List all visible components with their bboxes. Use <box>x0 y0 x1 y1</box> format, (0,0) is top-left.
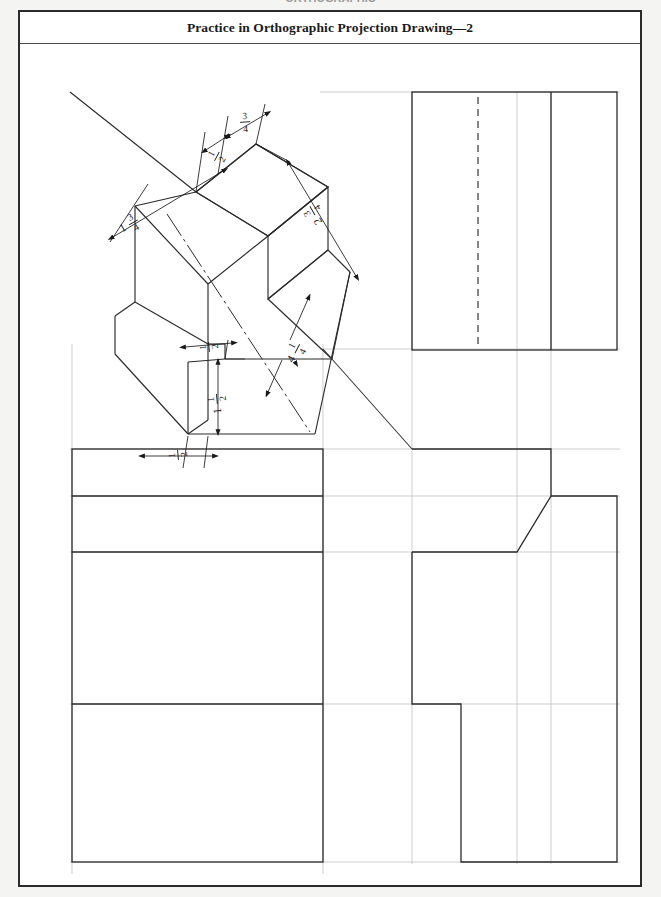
svg-text:4: 4 <box>312 203 323 212</box>
dim-label-iso-notch-width: 1 2 <box>198 341 221 353</box>
page-title: Practice in Orthographic Projection Draw… <box>187 20 473 36</box>
svg-text:1: 1 <box>206 396 216 402</box>
dim-label-iso-top-right: 3 4 <box>239 111 251 135</box>
title-bar: Practice in Orthographic Projection Draw… <box>20 12 640 44</box>
construction-lines <box>70 92 620 874</box>
svg-text:3: 3 <box>302 209 313 218</box>
top-view <box>412 92 617 350</box>
svg-text:2: 2 <box>179 451 189 457</box>
drawing-sheet: Practice in Orthographic Projection Draw… <box>18 10 642 887</box>
svg-text:2: 2 <box>311 216 324 227</box>
svg-text:1: 1 <box>211 407 223 414</box>
svg-text:1: 1 <box>287 341 298 350</box>
dim-label-iso-overall-length: 4 1 4 <box>281 339 310 367</box>
svg-text:2: 2 <box>218 395 228 401</box>
svg-text:3: 3 <box>242 111 248 121</box>
svg-text:2: 2 <box>217 155 228 164</box>
cut-off-header-text: ORTHOGRAPHIC <box>285 0 375 4</box>
svg-text:4: 4 <box>243 124 249 134</box>
drawing-area: 1 2 3 4 1 3 4 <box>20 44 640 885</box>
svg-text:1: 1 <box>167 452 177 458</box>
cut-off-header-strip: ORTHOGRAPHIC <box>0 0 661 9</box>
svg-text:1: 1 <box>206 149 217 158</box>
isometric-view <box>70 92 350 434</box>
front-view <box>72 449 323 862</box>
svg-text:1: 1 <box>117 221 128 234</box>
isometric-dimension-text: 1 2 3 4 1 3 4 <box>115 111 329 461</box>
svg-text:4: 4 <box>132 222 141 233</box>
miter-line-45 <box>323 349 412 449</box>
technical-drawing-svg: 1 2 3 4 1 3 4 <box>20 44 640 885</box>
svg-text:4: 4 <box>297 347 308 356</box>
dim-label-iso-top-left: 1 2 <box>205 147 229 166</box>
isometric-dimension-lines <box>110 86 356 468</box>
dim-label-iso-left-height: 1 3 4 <box>115 210 143 239</box>
dim-label-iso-notch-height: 1 1 2 <box>206 393 230 415</box>
svg-text:3: 3 <box>126 212 135 223</box>
page-background: ORTHOGRAPHIC Practice in Orthographic Pr… <box>0 0 661 897</box>
right-side-view <box>412 449 617 862</box>
svg-text:1: 1 <box>198 344 208 350</box>
